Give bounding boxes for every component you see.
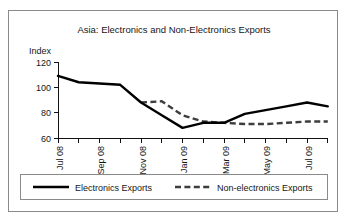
chart-title: Asia: Electronics and Non-Electronics Ex… bbox=[77, 24, 270, 35]
legend-label-electronics-exports: Electronics Exports bbox=[75, 183, 153, 193]
x-axis: Jul 08 Sep 08 Nov 08 Jan 09 Mar 09 May 0… bbox=[55, 138, 329, 176]
y-tick-label-80: 80 bbox=[41, 108, 51, 118]
y-tick-label-60: 60 bbox=[41, 134, 51, 144]
x-tick-label-nov-08: Nov 08 bbox=[138, 146, 148, 175]
series-group bbox=[58, 76, 328, 128]
y-tick-label-120: 120 bbox=[36, 58, 51, 68]
y-tick-label-100: 100 bbox=[36, 83, 51, 93]
x-tick-label-jul-09: Jul 09 bbox=[304, 146, 314, 170]
y-axis-label: Index bbox=[29, 46, 52, 56]
chart-canvas: Asia: Electronics and Non-Electronics Ex… bbox=[9, 11, 339, 213]
x-tick-label-sep-08: Sep 08 bbox=[96, 146, 106, 175]
legend: Electronics Exports Non-electronics Expo… bbox=[21, 175, 328, 200]
figure-frame: Asia: Electronics and Non-Electronics Ex… bbox=[8, 10, 338, 212]
legend-label-non-electronics-exports: Non-electronics Exports bbox=[217, 183, 313, 193]
x-tick-label-mar-09: Mar 09 bbox=[221, 146, 231, 174]
y-axis: 120 100 80 60 bbox=[36, 58, 58, 144]
x-tick-label-jul-08: Jul 08 bbox=[55, 146, 65, 170]
x-tick-label-may-09: May 09 bbox=[262, 146, 272, 176]
series-line-electronics-exports bbox=[58, 76, 328, 128]
x-tick-label-jan-09: Jan 09 bbox=[179, 146, 189, 173]
